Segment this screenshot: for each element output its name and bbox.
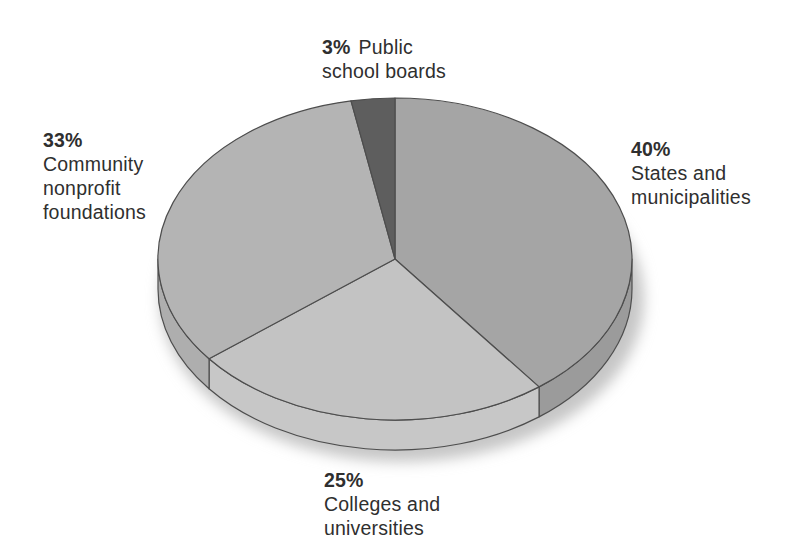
- slice-percent: 25%: [324, 468, 432, 492]
- slice-percent: 40%: [631, 137, 743, 161]
- label-line: 3%Public: [322, 35, 446, 59]
- slice-percent: 3%: [322, 36, 351, 58]
- label-line: States and: [631, 161, 751, 185]
- label-community-nonprofit-foundations: 33% Community nonprofit foundations: [43, 128, 146, 224]
- label-line: Community: [43, 152, 146, 176]
- label-text: Public: [359, 36, 413, 58]
- label-line: foundations: [43, 200, 146, 224]
- label-line: school boards: [322, 59, 446, 83]
- label-states-and-municipalities: 40% States and municipalities: [631, 137, 751, 209]
- label-public-school-boards: 3%Public school boards: [322, 35, 446, 83]
- label-line: municipalities: [631, 185, 751, 209]
- label-line: Colleges and: [324, 492, 440, 516]
- label-line: universities: [324, 516, 440, 540]
- slice-percent: 33%: [43, 128, 138, 152]
- label-colleges-and-universities: 25% Colleges and universities: [324, 468, 440, 540]
- label-line: nonprofit: [43, 176, 146, 200]
- chart-canvas: 3%Public school boards 40% States and mu…: [0, 0, 794, 554]
